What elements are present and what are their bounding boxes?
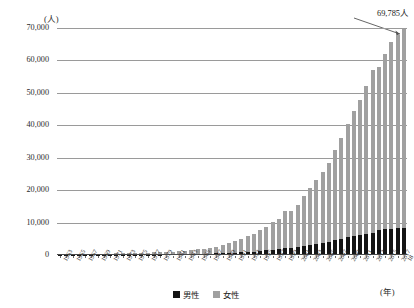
bar-stack — [302, 196, 306, 255]
bar-stack — [339, 138, 343, 255]
x-tick-mark — [366, 256, 367, 258]
x-tick-mark — [391, 256, 392, 258]
x-tick-mark — [229, 256, 230, 258]
bar-segment-female — [364, 86, 368, 234]
x-tick-mark — [354, 256, 355, 258]
x-tick-mark — [254, 256, 255, 258]
x-axis-tick-label: 18 — [405, 254, 414, 263]
bar-stack — [352, 111, 356, 255]
bar-stack — [333, 150, 337, 255]
bars-group — [57, 28, 407, 255]
x-tick-mark — [141, 256, 142, 258]
x-tick-mark — [179, 256, 180, 258]
bar-segment-female — [296, 205, 300, 247]
bar-segment-female — [358, 100, 362, 235]
x-tick-mark — [66, 256, 67, 258]
x-tick-mark — [279, 256, 280, 258]
bar-stack — [283, 211, 287, 255]
bar-segment-female — [396, 35, 400, 228]
bar-segment-female — [346, 124, 350, 237]
bar-stack — [377, 67, 381, 255]
x-tick-mark — [379, 256, 380, 258]
bar-segment-female — [371, 70, 375, 233]
x-tick-mark — [104, 256, 105, 258]
bar-stack — [321, 172, 325, 255]
bar-segment-female — [352, 111, 356, 236]
x-tick-mark — [266, 256, 267, 258]
bar-segment-female — [271, 222, 275, 250]
x-tick-mark — [304, 256, 305, 258]
x-tick-mark — [204, 256, 205, 258]
bar-stack — [296, 205, 300, 256]
bar-segment-female — [308, 188, 312, 244]
bar-segment-female — [327, 163, 331, 242]
bar-stack — [383, 54, 387, 255]
x-tick-mark — [79, 256, 80, 258]
x-tick-mark — [166, 256, 167, 258]
x-tick-mark — [341, 256, 342, 258]
bar-stack — [371, 70, 375, 255]
bar-segment-female — [302, 196, 306, 246]
bar-segment-female — [314, 180, 318, 243]
x-tick-mark — [116, 256, 117, 258]
bar-stack — [327, 163, 331, 255]
bar-stack — [308, 188, 312, 255]
x-tick-mark — [241, 256, 242, 258]
bar-stack — [314, 180, 318, 255]
bar-stack — [364, 86, 368, 255]
bar-stack — [346, 124, 350, 255]
x-tick-mark — [129, 256, 130, 258]
y-axis-tick-label: 0 — [5, 250, 49, 259]
x-tick-mark — [91, 256, 92, 258]
y-axis-tick-label: 10,000 — [5, 218, 49, 227]
bar-stack — [396, 35, 400, 255]
bar-segment-female — [289, 211, 293, 248]
bar-segment-female — [377, 67, 381, 230]
x-axis-tick-labels: 1963196519671969197119731975197719791981… — [57, 256, 407, 286]
x-tick-mark — [216, 256, 217, 258]
x-tick-mark — [291, 256, 292, 258]
y-axis-tick-label: 40,000 — [5, 120, 49, 129]
y-axis-tick-label: 70,000 — [5, 23, 49, 32]
bar-segment-female — [321, 172, 325, 243]
x-tick-slot: 18 — [401, 256, 407, 286]
bar-segment-female — [277, 219, 281, 249]
bar-stack — [358, 100, 362, 255]
bar-segment-female — [283, 211, 287, 248]
x-tick-mark — [316, 256, 317, 258]
legend-swatch-male-icon — [173, 291, 180, 298]
bar-slot — [401, 28, 407, 255]
bar-segment-female — [402, 29, 406, 228]
bar-stack — [389, 42, 393, 255]
legend-swatch-female-icon — [213, 291, 220, 298]
x-tick-mark — [329, 256, 330, 258]
legend-label-male: 男性 — [183, 288, 199, 300]
plot-area: 010,00020,00030,00040,00050,00060,00070,… — [57, 28, 407, 255]
legend-item-male: 男性 — [173, 288, 199, 300]
y-axis-tick-label: 60,000 — [5, 55, 49, 64]
chart-legend: 男性 女性 — [0, 288, 412, 300]
bar-segment-female — [258, 230, 262, 251]
x-tick-mark — [154, 256, 155, 258]
y-axis-tick-label: 30,000 — [5, 153, 49, 162]
bar-segment-female — [339, 138, 343, 238]
bar-segment-female — [383, 54, 387, 228]
bar-segment-female — [389, 42, 393, 229]
bar-stack — [402, 29, 406, 255]
bar-segment-female — [333, 150, 337, 240]
legend-item-female: 女性 — [213, 288, 239, 300]
y-axis-tick-label: 50,000 — [5, 88, 49, 97]
x-tick-mark — [191, 256, 192, 258]
y-axis-tick-label: 20,000 — [5, 185, 49, 194]
legend-label-female: 女性 — [223, 288, 239, 300]
bar-segment-female — [264, 227, 268, 251]
